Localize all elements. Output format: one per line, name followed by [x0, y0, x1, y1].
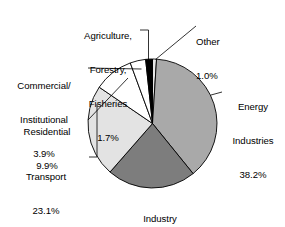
slice-label-energy-value: 38.2%: [224, 169, 282, 180]
leader-line-other: [156, 26, 197, 60]
pie-chart: Other 1.0%Energy Industries 38.2%Industr…: [0, 0, 285, 227]
slice-label-agriculture-line1: Agriculture,: [62, 30, 154, 41]
slice-label-transport-value: 23.1%: [6, 205, 86, 216]
slice-label-energy-line2: Industries: [224, 135, 282, 146]
slice-label-transport-line1: Transport: [6, 171, 86, 182]
slice-label-industry-line1: Industry: [120, 213, 200, 224]
slice-label-energy-line1: Energy: [224, 101, 282, 112]
slice-label-transport: Transport 23.1%: [6, 148, 86, 227]
slice-label-energy-industries: Energy Industries 38.2%: [224, 78, 282, 203]
slice-label-other-line1: Other: [196, 36, 256, 47]
slice-label-commercial-line1: Commercial/: [2, 80, 86, 91]
slice-label-residential-line1: Residential: [8, 126, 86, 137]
slice-label-industry: Industry 22.3%: [120, 190, 200, 227]
